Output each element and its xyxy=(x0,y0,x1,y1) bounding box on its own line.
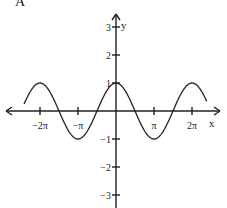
x-tick-label: π xyxy=(151,120,156,131)
cosine-graph: xy−2π−ππ2π321−1−2−3 xyxy=(0,0,227,208)
y-tick-label: 2 xyxy=(106,50,111,61)
y-tick-label: −1 xyxy=(100,134,111,145)
x-axis-label: x xyxy=(209,117,215,129)
axes: xy−2π−ππ2π321−1−2−3 xyxy=(6,14,220,208)
y-tick-label: −2 xyxy=(100,162,111,173)
y-tick-label: −3 xyxy=(100,190,111,201)
y-tick-label: 3 xyxy=(106,22,111,33)
x-tick-label: −π xyxy=(73,120,84,131)
y-axis-label: y xyxy=(121,19,127,31)
x-tick-label: −2π xyxy=(32,120,48,131)
x-tick-label: 2π xyxy=(187,120,197,131)
